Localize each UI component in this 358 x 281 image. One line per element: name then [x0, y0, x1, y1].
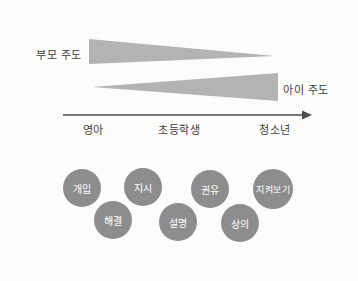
parent-led-label: 부모 주도	[36, 46, 82, 62]
child-led-tapering-triangle	[92, 73, 278, 101]
parent-led-tapering-triangle	[89, 39, 275, 64]
axis-arrowhead-icon	[302, 111, 312, 120]
method-bubble-discuss: 상의	[221, 204, 259, 242]
method-bubble-explain: 설명	[159, 203, 197, 241]
method-bubble-intervene: 개입	[63, 169, 101, 207]
stage-label-infant: 영아	[83, 121, 104, 137]
method-bubble-watch: 지켜보기	[253, 169, 293, 209]
stage-label-elementary: 초등학생	[158, 121, 200, 137]
stage-label-adolescent: 청소년	[259, 121, 291, 137]
method-bubble-solve: 해결	[94, 201, 132, 239]
method-bubble-instruct: 지시	[124, 168, 162, 206]
diagram-canvas: 부모 주도 아이 주도 영아 초등학생 청소년 개입 지시 권유 지켜보기 해결…	[0, 0, 358, 281]
method-bubble-suggest: 권유	[191, 170, 229, 208]
child-led-label: 아이 주도	[283, 81, 329, 97]
